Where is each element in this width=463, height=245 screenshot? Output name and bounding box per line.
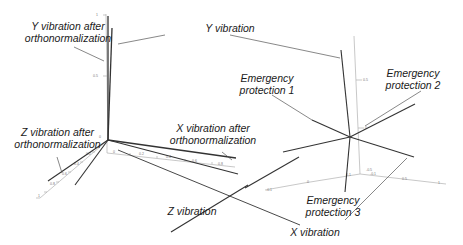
svg-text:-0.1: -0.1 [266,188,272,192]
svg-text:1: 1 [96,13,98,17]
svg-text:0.5: 0.5 [93,74,98,78]
right-plot-axes [265,36,446,190]
svg-text:0.5: 0.5 [363,78,368,82]
label-x-vibration: X vibration [285,226,345,238]
svg-text:-0.1: -0.1 [370,172,376,176]
label-z-vibration-after-orthonormalization: Z vibration after orthonormalization [10,126,105,150]
svg-text:0.2: 0.2 [139,152,144,156]
left-plot-vectors [48,16,300,225]
label-emergency-protection-1: Emergency protection 1 [237,72,297,96]
svg-text:0.6: 0.6 [62,172,67,176]
label-emergency-protection-2: Emergency protection 2 [383,67,443,91]
label-x-vibration-after-orthonormalization: X vibration after orthonormalization [163,122,263,146]
label-emergency-protection-3: Emergency protection 3 [303,194,363,218]
label-z-vibration: Z vibration [162,205,222,217]
svg-text:0: 0 [113,150,115,154]
label-y-vibration: Y vibration [195,22,265,34]
svg-text:0.8: 0.8 [50,182,55,186]
svg-text:0: 0 [307,180,309,184]
svg-text:1: 1 [438,181,440,185]
svg-text:0.8: 0.8 [218,162,223,166]
svg-text:1: 1 [38,194,40,198]
svg-text:0.5: 0.5 [402,177,407,181]
label-y-vibration-after-orthonormalization: Y vibration after orthonormalization [22,20,114,44]
